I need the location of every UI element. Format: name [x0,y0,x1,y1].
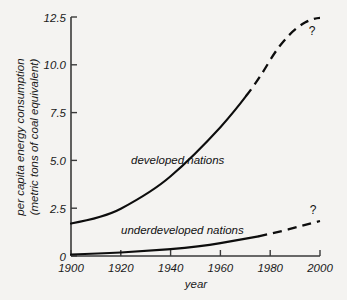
x-axis-title: year [184,278,209,290]
energy-consumption-line-chart: 12.5 10.0 7.5 5.0 2.5 0 1900 1920 1940 1… [0,0,347,300]
y-tick-label-0: 0 [60,251,67,263]
series-label-underdeveloped-nations: underdeveloped nations [121,224,244,236]
y-tick-label-10-0: 10.0 [44,59,67,71]
y-axis-title-line1: per capita energy consumption [14,58,26,216]
projection-question-mark-developed: ? [309,24,316,38]
chart-background [0,0,347,300]
y-tick-label-7-5: 7.5 [50,107,67,119]
series-label-developed-nations: developed nations [131,154,225,166]
projection-question-mark-underdeveloped: ? [310,203,317,217]
x-tick-label-2000: 2000 [306,262,333,274]
y-tick-label-12-5: 12.5 [44,12,67,24]
y-tick-label-2-5: 2.5 [49,203,67,215]
x-tick-label-1900: 1900 [58,262,84,274]
y-tick-label-5-0: 5.0 [50,155,67,167]
x-tick-label-1960: 1960 [208,262,234,274]
y-axis-title-line2: (metric tons of coal equivalent) [28,59,40,216]
x-tick-label-1980: 1980 [257,262,283,274]
chart-container: 12.5 10.0 7.5 5.0 2.5 0 1900 1920 1940 1… [0,0,347,300]
x-tick-label-1920: 1920 [108,262,134,274]
x-tick-label-1940: 1940 [158,262,184,274]
